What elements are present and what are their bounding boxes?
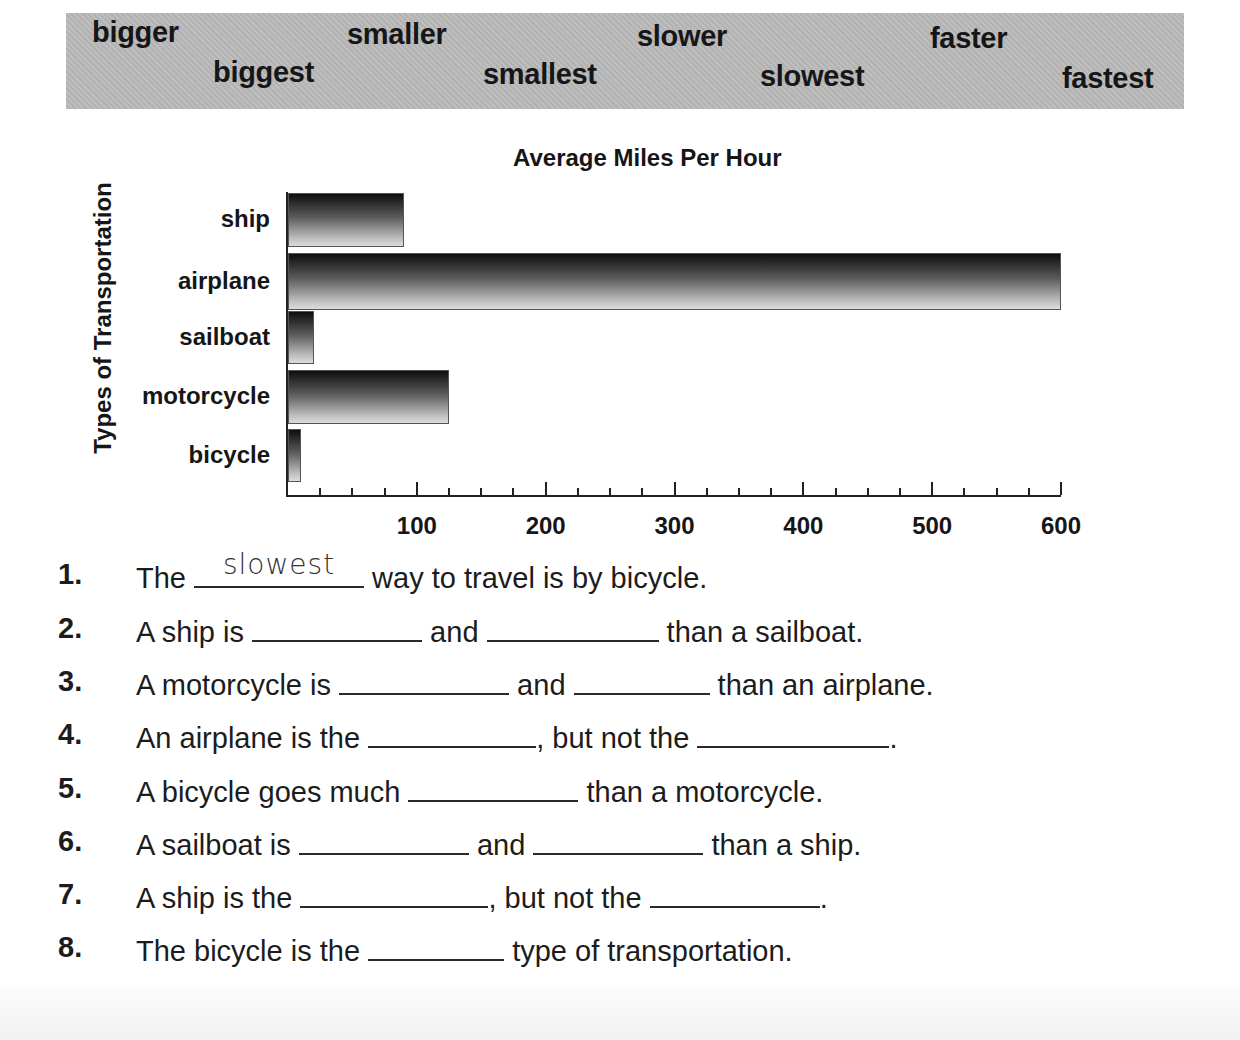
x-axis-line <box>286 495 1061 497</box>
x-minor-tick <box>641 488 643 495</box>
word-bank-word: smaller <box>347 18 446 51</box>
answer-blank[interactable]: slowest <box>194 558 364 588</box>
x-minor-tick <box>706 488 708 495</box>
answer-blank[interactable] <box>252 612 422 642</box>
word-bank-word: faster <box>930 22 1007 55</box>
question-text-segment: . <box>889 722 897 754</box>
question-text-segment: type of transportation. <box>504 935 793 967</box>
question-number: 2. <box>58 612 82 645</box>
x-minor-tick <box>480 488 482 495</box>
question-text-segment: A ship is the <box>136 882 300 914</box>
word-bank-word: smallest <box>483 58 597 91</box>
question-text-segment: than an airplane. <box>710 669 934 701</box>
question-text-segment: and <box>509 669 574 701</box>
page-background-edge <box>0 985 1240 1040</box>
x-minor-tick <box>319 488 321 495</box>
answer-blank[interactable] <box>368 718 536 748</box>
question-text: The slowest way to travel is by bicycle. <box>136 558 707 595</box>
question-text: A motorcycle is and than an airplane. <box>136 665 934 702</box>
x-minor-tick <box>448 488 450 495</box>
x-minor-tick <box>963 488 965 495</box>
question-text-segment: The bicycle is the <box>136 935 368 967</box>
x-major-tick <box>416 482 418 495</box>
answer-blank[interactable] <box>533 825 703 855</box>
question-text-segment: A sailboat is <box>136 829 299 861</box>
x-tick-label: 100 <box>397 512 437 540</box>
x-minor-tick <box>867 488 869 495</box>
answer-blank[interactable] <box>650 878 820 908</box>
x-tick-label: 600 <box>1041 512 1081 540</box>
x-tick-label: 400 <box>783 512 823 540</box>
question-number: 7. <box>58 878 82 911</box>
word-bank-word: slower <box>637 20 727 53</box>
category-label-bicycle: bicycle <box>189 441 270 469</box>
question-text-segment: than a ship. <box>703 829 861 861</box>
word-bank: biggerbiggestsmallersmallestslowerslowes… <box>66 13 1184 109</box>
question-number: 4. <box>58 718 82 751</box>
question-text-segment: A ship is <box>136 616 252 648</box>
x-minor-tick <box>512 488 514 495</box>
question-text: A bicycle goes much than a motorcycle. <box>136 772 823 809</box>
answer-blank[interactable] <box>339 665 509 695</box>
question-text: A ship is the , but not the . <box>136 878 828 915</box>
category-label-ship: ship <box>221 205 270 233</box>
x-minor-tick <box>609 488 611 495</box>
bar-motorcycle <box>288 370 449 424</box>
word-bank-word: slowest <box>760 60 864 93</box>
category-label-motorcycle: motorcycle <box>142 382 270 410</box>
bar-sailboat <box>288 311 314 364</box>
answer-blank[interactable] <box>299 825 469 855</box>
question-text-segment: A bicycle goes much <box>136 776 408 808</box>
answer-blank[interactable] <box>300 878 488 908</box>
bar-ship <box>288 193 404 247</box>
question-text-segment: A motorcycle is <box>136 669 339 701</box>
question-text-segment: . <box>820 882 828 914</box>
question-text: The bicycle is the type of transportatio… <box>136 931 793 968</box>
word-bank-word: bigger <box>92 16 179 49</box>
bar-airplane <box>288 253 1061 310</box>
x-minor-tick <box>577 488 579 495</box>
answer-blank[interactable] <box>697 718 889 748</box>
question-number: 1. <box>58 558 82 591</box>
answer-blank[interactable] <box>408 772 578 802</box>
question-text-segment: and <box>422 616 487 648</box>
x-minor-tick <box>351 488 353 495</box>
answer-blank[interactable] <box>487 612 659 642</box>
question-number: 5. <box>58 772 82 805</box>
answer-blank[interactable] <box>368 931 504 961</box>
category-label-airplane: airplane <box>178 267 270 295</box>
x-minor-tick <box>996 488 998 495</box>
x-minor-tick <box>835 488 837 495</box>
y-axis-title: Types of Transportation <box>89 182 117 454</box>
x-tick-label: 300 <box>654 512 694 540</box>
x-major-tick <box>545 482 547 495</box>
handwritten-answer: slowest <box>194 548 364 581</box>
question-number: 8. <box>58 931 82 964</box>
question-text-segment: , but not the <box>536 722 697 754</box>
x-major-tick <box>931 482 933 495</box>
question-text-segment: , but not the <box>488 882 649 914</box>
x-minor-tick <box>770 488 772 495</box>
question-text: A ship is and than a sailboat. <box>136 612 863 649</box>
question-text: A sailboat is and than a ship. <box>136 825 861 862</box>
question-number: 3. <box>58 665 82 698</box>
chart-title: Average Miles Per Hour <box>513 144 782 172</box>
category-label-sailboat: sailboat <box>179 323 270 351</box>
x-minor-tick <box>899 488 901 495</box>
question-text: An airplane is the , but not the . <box>136 718 897 755</box>
answer-blank[interactable] <box>574 665 710 695</box>
x-minor-tick <box>1028 488 1030 495</box>
question-text-segment: The <box>136 562 194 594</box>
x-tick-label: 500 <box>912 512 952 540</box>
question-text-segment: An airplane is the <box>136 722 368 754</box>
question-text-segment: than a sailboat. <box>659 616 864 648</box>
x-minor-tick <box>738 488 740 495</box>
word-bank-word: biggest <box>213 56 314 89</box>
word-bank-word: fastest <box>1062 62 1153 95</box>
question-text-segment: and <box>469 829 534 861</box>
x-tick-label: 200 <box>526 512 566 540</box>
question-number: 6. <box>58 825 82 858</box>
x-major-tick <box>802 482 804 495</box>
x-minor-tick <box>384 488 386 495</box>
question-text-segment: than a motorcycle. <box>578 776 823 808</box>
